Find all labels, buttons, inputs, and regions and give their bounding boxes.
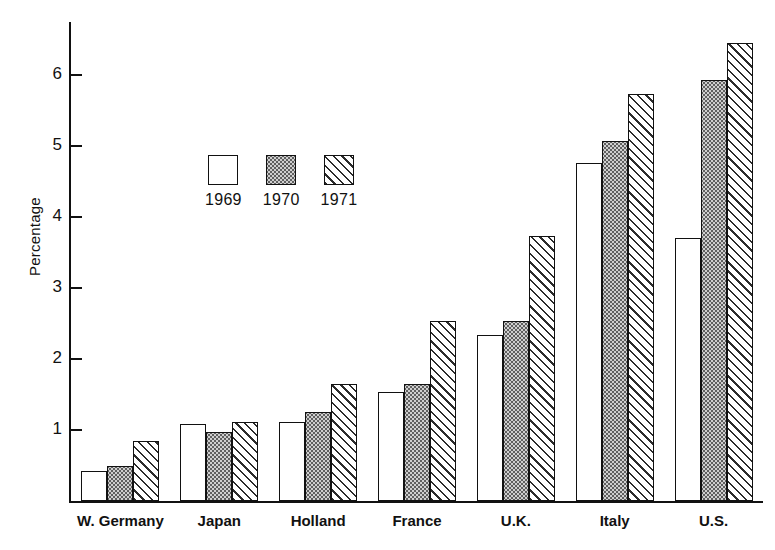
x-axis-label: Holland xyxy=(269,512,368,529)
bar xyxy=(378,392,404,501)
x-axis-label: W. Germany xyxy=(71,512,170,529)
bar-group xyxy=(576,22,654,501)
legend-label-1969: 1969 xyxy=(205,191,242,209)
bar-group xyxy=(279,22,357,501)
x-axis-label: Japan xyxy=(170,512,269,529)
x-axis-label: U.K. xyxy=(466,512,565,529)
bar xyxy=(305,412,331,501)
legend-label-1971: 1971 xyxy=(321,191,358,209)
bar-group xyxy=(378,22,456,501)
y-tick-label-3: 3 xyxy=(22,277,62,297)
plot-area xyxy=(71,22,763,501)
x-axis-label: Italy xyxy=(565,512,664,529)
legend: 1969 1970 1971 xyxy=(205,155,357,209)
legend-swatch-1971 xyxy=(324,155,354,185)
bar xyxy=(529,236,555,501)
bar xyxy=(576,163,602,501)
y-tick-label-5: 5 xyxy=(22,135,62,155)
x-axis-line xyxy=(69,501,763,503)
bar xyxy=(701,80,727,501)
bar xyxy=(628,94,654,501)
bar xyxy=(602,141,628,501)
legend-item-1969: 1969 xyxy=(205,155,242,209)
y-tick-label-4: 4 xyxy=(22,206,62,226)
y-tick-label-6: 6 xyxy=(22,64,62,84)
bar xyxy=(180,424,206,501)
bar xyxy=(206,432,232,501)
y-tick-label-1: 1 xyxy=(22,419,62,439)
bar xyxy=(81,471,107,502)
bar xyxy=(675,238,701,501)
bar xyxy=(727,43,753,501)
bar-group xyxy=(477,22,555,501)
x-axis-label: France xyxy=(368,512,467,529)
bar xyxy=(404,384,430,501)
x-axis-label: U.S. xyxy=(664,512,763,529)
bar-group xyxy=(81,22,159,501)
bar-group xyxy=(180,22,258,501)
bar xyxy=(477,335,503,501)
bar-group xyxy=(675,22,753,501)
legend-item-1970: 1970 xyxy=(263,155,300,209)
bar xyxy=(107,466,133,501)
bar xyxy=(503,321,529,501)
bar xyxy=(232,422,258,501)
y-tick-label-2: 2 xyxy=(22,348,62,368)
bar xyxy=(430,321,456,501)
bar xyxy=(279,422,305,501)
legend-swatch-1969 xyxy=(208,155,238,185)
legend-item-1971: 1971 xyxy=(321,155,358,209)
legend-label-1970: 1970 xyxy=(263,191,300,209)
bar-chart: Percentage 123456 W. GermanyJapanHolland… xyxy=(0,0,775,550)
legend-swatch-1970 xyxy=(266,155,296,185)
bar xyxy=(331,384,357,501)
bar xyxy=(133,441,159,501)
